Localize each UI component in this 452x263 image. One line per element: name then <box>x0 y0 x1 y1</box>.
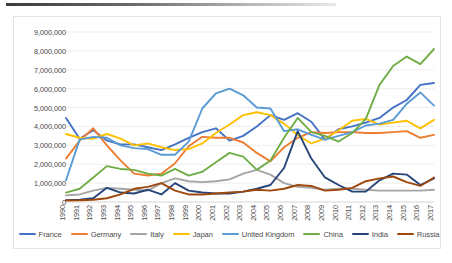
x-axis-tick-label: 2011 <box>344 205 353 220</box>
legend-item-label: Japan <box>193 230 213 239</box>
x-axis-tick-label: 1991 <box>71 205 80 221</box>
legend-item-united-kingdom[interactable]: United Kingdom <box>222 230 295 239</box>
legend-item-russia[interactable]: Russia <box>397 230 440 239</box>
legend-item-italy[interactable]: Italy <box>130 230 163 239</box>
legend-swatch-icon <box>19 233 36 235</box>
x-axis-tick-label: 2013 <box>371 205 380 221</box>
x-axis: 1990199119921993199419951996199719981999… <box>14 17 442 250</box>
x-axis-tick-label: 1992 <box>85 205 94 221</box>
x-axis-tick-label: 1997 <box>153 205 162 221</box>
x-axis-tick-label: 2008 <box>303 205 312 221</box>
legend-item-label: France <box>39 230 62 239</box>
chart-container: 9,000,0008,000,0007,000,0006,000,0005,00… <box>13 16 441 249</box>
legend-swatch-icon <box>71 233 88 235</box>
legend-item-label: Russia <box>417 230 440 239</box>
x-axis-tick-label: 2006 <box>276 205 285 221</box>
legend-item-india[interactable]: India <box>352 230 388 239</box>
x-axis-tick-label: 2015 <box>398 205 407 221</box>
legend-item-label: Germany <box>91 230 122 239</box>
x-axis-tick-label: 2003 <box>235 205 244 221</box>
x-axis-tick-label: 2010 <box>330 205 339 221</box>
x-axis-tick-label: 2012 <box>357 205 366 221</box>
x-axis-tick-label: 2014 <box>385 205 394 221</box>
x-axis-tick-label: 2004 <box>248 205 257 221</box>
x-axis-tick-label: 2017 <box>426 205 435 221</box>
x-axis-tick-label: 1993 <box>98 205 107 221</box>
x-axis-tick-label: 1998 <box>167 205 176 221</box>
legend-item-china[interactable]: China <box>303 230 342 239</box>
chart-legend: FranceGermanyItalyJapanUnited KingdomChi… <box>22 225 436 243</box>
scan-artifact-line <box>6 3 336 6</box>
x-axis-tick-label: 2009 <box>316 205 325 221</box>
legend-item-label: United Kingdom <box>242 230 295 239</box>
x-axis-tick-label: 1990 <box>58 205 67 221</box>
x-axis-tick-label: 2002 <box>221 205 230 221</box>
legend-swatch-icon <box>130 233 147 235</box>
legend-swatch-icon <box>222 233 239 235</box>
x-axis-tick-label: 1999 <box>180 205 189 221</box>
legend-item-germany[interactable]: Germany <box>71 230 122 239</box>
x-axis-tick-label: 2005 <box>262 205 271 221</box>
x-axis-tick-label: 1994 <box>112 205 121 221</box>
legend-item-label: Italy <box>150 230 163 239</box>
legend-swatch-icon <box>397 233 414 235</box>
legend-swatch-icon <box>173 233 190 235</box>
legend-item-label: China <box>323 230 342 239</box>
x-axis-tick-label: 2007 <box>289 205 298 221</box>
x-axis-tick-label: 2016 <box>412 205 421 221</box>
x-axis-tick-label: 2000 <box>194 205 203 221</box>
legend-item-japan[interactable]: Japan <box>173 230 213 239</box>
x-axis-tick-label: 1996 <box>139 205 148 221</box>
legend-swatch-icon <box>303 233 320 235</box>
x-axis-tick-label: 1995 <box>126 205 135 221</box>
legend-swatch-icon <box>352 233 369 235</box>
x-axis-tick-label: 2001 <box>207 205 216 221</box>
legend-item-label: India <box>372 230 388 239</box>
legend-item-france[interactable]: France <box>19 230 62 239</box>
